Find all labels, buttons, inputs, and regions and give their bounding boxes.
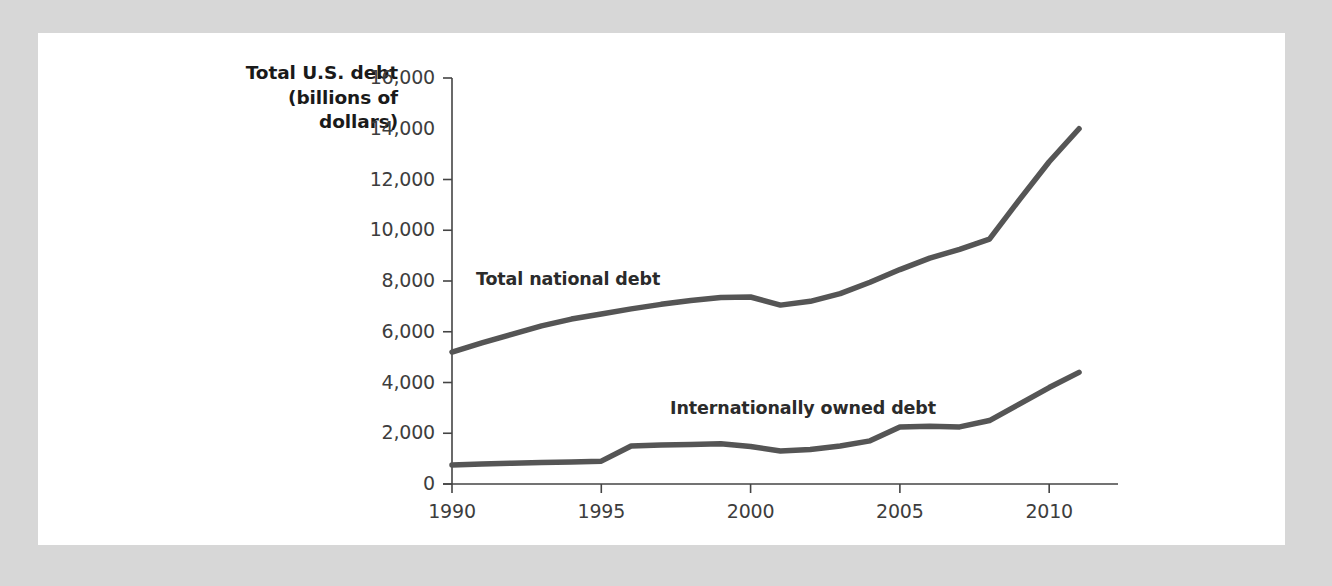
y-tick-label-12000: 12,000 (315, 168, 435, 190)
series-line-0 (452, 129, 1079, 352)
debt-line-chart: Total U.S. debt (billions of dollars) 16… (38, 33, 1285, 545)
y-tick-label-14000: 14,000 (315, 117, 435, 139)
series-label-1: Internationally owned debt (670, 398, 936, 418)
x-tick-label-2005: 2005 (855, 500, 945, 522)
series-label-0: Total national debt (476, 269, 660, 289)
x-tick-label-1990: 1990 (407, 500, 497, 522)
y-tick-label-0: 0 (315, 472, 435, 494)
x-tick-label-2010: 2010 (1004, 500, 1094, 522)
y-tick-label-10000: 10,000 (315, 218, 435, 240)
series-line-1 (452, 372, 1079, 465)
y-tick-label-6000: 6,000 (315, 320, 435, 342)
y-tick-label-4000: 4,000 (315, 371, 435, 393)
y-tick-label-16000: 16,000 (315, 66, 435, 88)
figure-card: Total U.S. debt (billions of dollars) 16… (38, 33, 1285, 545)
y-tick-label-2000: 2,000 (315, 421, 435, 443)
chart-plot-svg (38, 33, 1285, 545)
x-tick-label-2000: 2000 (706, 500, 796, 522)
x-tick-label-1995: 1995 (556, 500, 646, 522)
y-tick-label-8000: 8,000 (315, 269, 435, 291)
